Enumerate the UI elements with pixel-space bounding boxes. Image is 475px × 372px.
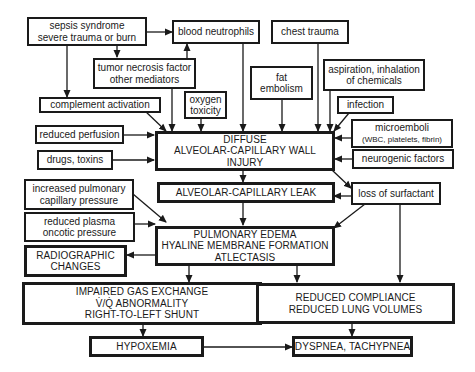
node-radiographic-changes: RADIOGRAPHIC CHANGES <box>24 245 127 277</box>
node-microemboli: microemboli (WBC, platelets, fibrin) <box>351 119 453 148</box>
node-label: reduced perfusion <box>39 129 119 141</box>
node-tumor-necrosis-factor: tumor necrosis factor other mediators <box>93 58 196 89</box>
node-label: ALVEOLAR-CAPILLARY WALL <box>174 145 316 157</box>
node-label: DYSPNEA, TACHYPNEA <box>295 341 410 353</box>
node-dyspnea-tachypnea: DYSPNEA, TACHYPNEA <box>292 336 413 357</box>
node-label: HYALINE MEMBRANE FORMATION <box>161 240 328 252</box>
node-label: drugs, toxins <box>47 154 104 166</box>
node-oxygen-toxicity: oxygen toxicity <box>184 91 227 119</box>
node-fat-embolism: fat embolism <box>250 66 313 100</box>
node-label: RIGHT-TO-LEFT SHUNT <box>85 309 199 321</box>
node-label: PULMONARY EDEMA <box>194 229 297 241</box>
node-label: REDUCED LUNG VOLUMES <box>289 304 423 316</box>
node-infection: infection <box>337 96 394 114</box>
node-drugs-toxins: drugs, toxins <box>37 150 113 170</box>
node-blood-neutrophils: blood neutrophils <box>172 20 260 44</box>
node-aspiration: aspiration, inhalation of chemicals <box>323 59 425 91</box>
node-label: increased pulmonary <box>33 183 126 195</box>
node-label: toxicity <box>190 105 221 117</box>
node-sepsis: sepsis syndrome severe trauma or burn <box>27 17 147 46</box>
node-label: ATLECTASIS <box>215 252 276 264</box>
node-label: V̇/Q̇ ABNORMALITY <box>96 298 189 310</box>
node-label: reduced plasma <box>44 216 115 228</box>
node-reduced-compliance: REDUCED COMPLIANCE REDUCED LUNG VOLUMES <box>256 283 455 324</box>
node-complement-activation: complement activation <box>39 97 161 113</box>
node-label: complement activation <box>50 99 150 111</box>
node-hypoxemia: HYPOXEMIA <box>89 336 204 357</box>
node-label: (WBC, platelets, fibrin) <box>362 134 442 146</box>
node-label: other mediators <box>110 74 179 86</box>
node-impaired-gas-exchange: IMPAIRED GAS EXCHANGE V̇/Q̇ ABNORMALITY … <box>22 282 262 325</box>
ards-flowchart: sepsis syndrome severe trauma or burn bl… <box>0 0 475 372</box>
node-label: RADIOGRAPHIC <box>36 250 114 262</box>
node-label: DIFFUSE <box>223 134 266 146</box>
node-label: ALVEOLAR-CAPILLARY LEAK <box>176 187 317 199</box>
node-label: chest trauma <box>281 26 339 38</box>
node-label: blood neutrophils <box>178 26 254 38</box>
node-neurogenic-factors: neurogenic factors <box>352 149 454 169</box>
node-label: loss of surfactant <box>358 188 434 200</box>
node-label: of chemicals <box>346 75 402 87</box>
node-label: embolism <box>260 83 303 95</box>
node-label: sepsis syndrome <box>49 20 124 32</box>
node-label: INJURY <box>227 157 264 169</box>
node-label: aspiration, inhalation <box>328 64 420 76</box>
node-reduced-perfusion: reduced perfusion <box>35 125 124 144</box>
node-label: fat <box>276 72 287 84</box>
node-label: HYPOXEMIA <box>116 341 176 353</box>
node-label: infection <box>347 99 384 111</box>
node-alveolar-capillary-leak: ALVEOLAR-CAPILLARY LEAK <box>157 182 335 203</box>
node-increased-pulmonary-capillary-pressure: increased pulmonary capillary pressure <box>24 179 134 210</box>
node-label: severe trauma or burn <box>38 32 136 44</box>
node-label: oncotic pressure <box>43 227 116 239</box>
node-label: capillary pressure <box>40 195 118 207</box>
node-label: IMPAIRED GAS EXCHANGE <box>76 286 209 298</box>
node-label: REDUCED COMPLIANCE <box>295 292 415 304</box>
node-chest-trauma: chest trauma <box>271 20 349 44</box>
node-label: CHANGES <box>50 261 100 273</box>
node-reduced-plasma-oncotic-pressure: reduced plasma oncotic pressure <box>24 212 135 242</box>
node-label: neurogenic factors <box>362 153 444 165</box>
node-label: tumor necrosis factor <box>98 62 191 74</box>
node-label: microemboli <box>375 122 429 134</box>
node-pulmonary-edema: PULMONARY EDEMA HYALINE MEMBRANE FORMATI… <box>155 226 335 266</box>
node-loss-of-surfactant: loss of surfactant <box>351 182 441 205</box>
node-label: oxygen <box>189 94 221 106</box>
node-diffuse-alveolar-capillary-wall-injury: DIFFUSE ALVEOLAR-CAPILLARY WALL INJURY <box>155 131 335 171</box>
